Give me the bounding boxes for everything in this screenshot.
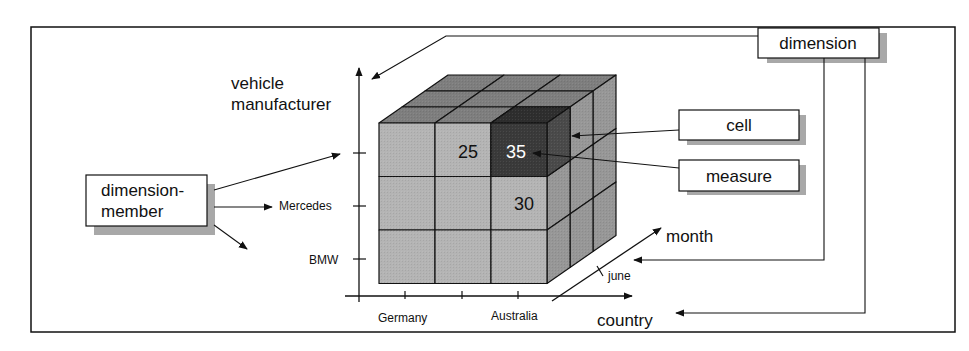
cube-front-cell-texture (379, 230, 435, 284)
dimension-member-connector-upper (214, 154, 340, 190)
dimension-box-label: dimension (779, 34, 857, 53)
cell-value-35: 35 (506, 142, 526, 162)
cube-front-cell-texture (379, 123, 435, 177)
tick-label-mercedes: Mercedes (279, 199, 332, 213)
tick-label-germany: Germany (378, 311, 427, 325)
data-cube: 253530 (379, 75, 616, 284)
tick-label-bmw: BMW (309, 253, 339, 267)
dimension-connector-vertical-axis (372, 36, 758, 79)
cell-box-label: cell (726, 116, 752, 135)
dimension-member-box-label-line2: member (101, 202, 164, 221)
cube-front-cell-texture (435, 230, 491, 284)
measure-box-label: measure (706, 167, 772, 186)
vertical-axis-label-line2: manufacturer (231, 95, 331, 114)
dimension-connector-month (634, 58, 824, 260)
horizontal-axis-label-country: country (597, 311, 653, 330)
depth-axis-label-month: month (666, 227, 713, 246)
vertical-axis-label-line1: vehicle (231, 74, 284, 93)
cube-front-cell-texture (491, 230, 547, 284)
dimension-member-connector-lower (214, 225, 247, 249)
tick-label-australia: Australia (491, 309, 538, 323)
olap-cube-diagram: 253530 vehicle manufacturer Mercedes BMW… (0, 0, 969, 351)
cell-value-30: 30 (514, 194, 534, 214)
cube-front-cell-texture (379, 177, 435, 231)
cell-value-25: 25 (458, 142, 478, 162)
dimension-member-box-label-line1: dimension- (101, 181, 184, 200)
tick-label-june: june (607, 269, 631, 283)
cube-front-cell-texture (435, 177, 491, 231)
